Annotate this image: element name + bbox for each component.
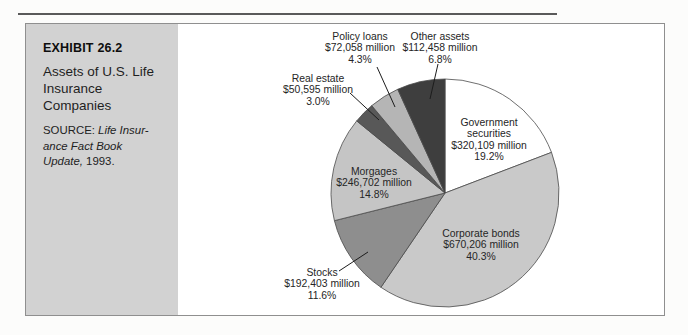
pie-label-name: Other assets [403, 31, 478, 42]
pie-label-amount: $192,403 million [284, 278, 360, 289]
pie-label-name: Real estate [283, 73, 353, 84]
pie-label-percent: 40.3% [442, 251, 519, 262]
pie-label-government-securities: Government securities $320,109 million 1… [451, 117, 527, 162]
pie-label-amount: $670,206 million [442, 239, 519, 250]
pie-label-name: Stocks [284, 267, 360, 278]
pie-label-amount: $50,595 million [283, 84, 353, 95]
pie-label-other-assets: Other assets $112,458 million 6.8% [403, 31, 478, 65]
pie-label-name: Government securities [456, 117, 522, 140]
pie-label-percent: 6.8% [403, 54, 478, 65]
pie-label-stocks: Stocks $192,403 million 11.6% [284, 267, 360, 301]
pie-label-amount: $112,458 million [403, 42, 478, 53]
pie-label-percent: 4.3% [325, 54, 395, 65]
pie-label-name: Corporate bonds [442, 228, 519, 239]
pie-label-real-estate: Real estate $50,595 million 3.0% [283, 73, 353, 107]
pie-label-morgages: Morgages $246,702 million 14.8% [336, 166, 412, 200]
pie-label-amount: $246,702 million [336, 177, 412, 188]
pie-label-corporate-bonds: Corporate bonds $670,206 million 40.3% [442, 228, 519, 262]
pie-label-percent: 19.2% [451, 151, 527, 162]
pie-label-amount: $320,109 million [451, 140, 527, 151]
pie-label-percent: 14.8% [336, 189, 412, 200]
pie-label-percent: 11.6% [284, 290, 360, 301]
pie-label-name: Policy loans [325, 31, 395, 42]
pie-label-name: Morgages [336, 166, 412, 177]
pie-label-policy-loans: Policy loans $72,058 million 4.3% [325, 31, 395, 65]
pie-label-amount: $72,058 million [325, 42, 395, 53]
page: { "sidebar": { "exhibit_label": "EXHIBIT… [0, 0, 688, 335]
pie-label-percent: 3.0% [283, 96, 353, 107]
